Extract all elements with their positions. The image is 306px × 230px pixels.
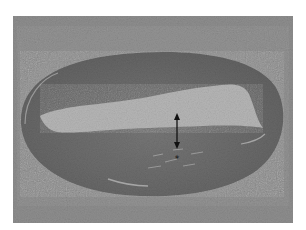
asterisk-marker: * xyxy=(175,154,180,164)
vessel-section: * xyxy=(13,16,293,223)
micrograph-image: * xyxy=(13,16,293,223)
